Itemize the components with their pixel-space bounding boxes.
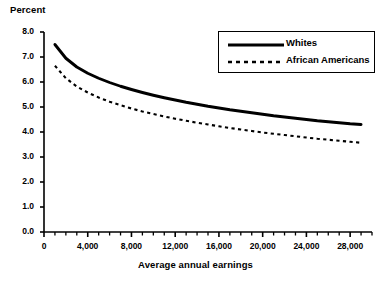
x-tick-label: 0 (42, 241, 47, 251)
x-tick-label: 8,000 (121, 241, 142, 251)
line-series-african-americans (55, 66, 361, 143)
legend: Whites African Americans (218, 31, 375, 73)
y-tick-label: 2.0 (6, 176, 34, 186)
y-tick-label: 8.0 (6, 26, 34, 36)
y-tick-label: 3.0 (6, 151, 34, 161)
y-tick-label: 5.0 (6, 101, 34, 111)
y-tick-label: 4.0 (6, 126, 34, 136)
x-tick-label: 16,000 (206, 241, 232, 251)
x-tick-label: 12,000 (162, 241, 188, 251)
x-tick-label: 28,000 (337, 241, 363, 251)
legend-swatch-dashed-icon (227, 54, 285, 66)
y-tick-label: 6.0 (6, 76, 34, 86)
legend-label-african-americans: African Americans (286, 54, 370, 66)
y-tick-label: 1.0 (6, 201, 34, 211)
y-tick-label: 7.0 (6, 51, 34, 61)
x-tick-label: 20,000 (250, 241, 276, 251)
y-tick-label: 0.0 (6, 226, 34, 236)
legend-item-whites: Whites (227, 36, 317, 50)
legend-item-african-americans: African Americans (227, 53, 370, 67)
x-tick-label: 4,000 (77, 241, 98, 251)
x-tick-label: 24,000 (293, 241, 319, 251)
legend-swatch-solid-icon (227, 37, 285, 49)
legend-label-whites: Whites (286, 37, 317, 49)
chart-container: Percent Average annual earnings 0.01.02.… (0, 0, 391, 282)
